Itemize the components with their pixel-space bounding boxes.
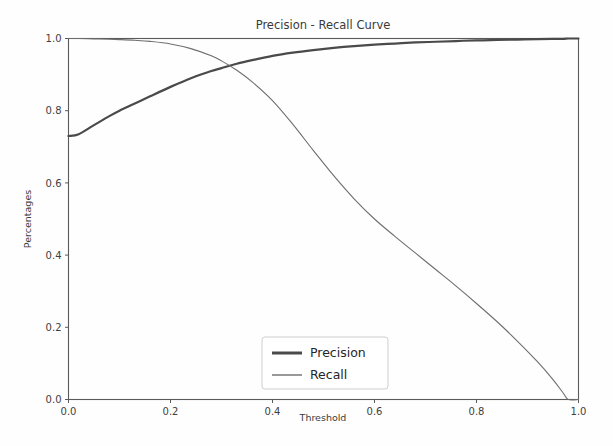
- x-tick-label: 0.0: [61, 406, 77, 417]
- chart-title: Precision - Recall Curve: [256, 18, 391, 32]
- figure-canvas: Precision - Recall Curve 0.00.20.40.60.8…: [0, 0, 613, 446]
- x-tick-label: 0.6: [367, 406, 383, 417]
- y-tick-label: 0.6: [46, 178, 62, 189]
- y-tick-label: 0.0: [46, 394, 62, 405]
- x-tick-label: 0.8: [469, 406, 485, 417]
- legend-label-precision: Precision: [310, 345, 366, 360]
- y-tick-label: 1.0: [46, 33, 62, 44]
- y-axis-label: Percentages: [22, 190, 33, 248]
- y-tick-label: 0.2: [46, 322, 62, 333]
- y-tick-label: 0.4: [46, 250, 62, 261]
- x-tick-label: 0.4: [265, 406, 281, 417]
- legend-label-recall: Recall: [310, 367, 347, 382]
- series-line-precision: [69, 38, 579, 135]
- chart-svg: Precision - Recall Curve 0.00.20.40.60.8…: [0, 0, 613, 446]
- x-tick-label: 1.0: [571, 406, 587, 417]
- x-tick-label: 0.2: [163, 406, 179, 417]
- y-axis-ticks: 0.00.20.40.60.81.0: [46, 33, 69, 405]
- x-axis-label: Threshold: [299, 412, 347, 423]
- y-tick-label: 0.8: [46, 105, 62, 116]
- chart-legend[interactable]: PrecisionRecall: [262, 337, 388, 389]
